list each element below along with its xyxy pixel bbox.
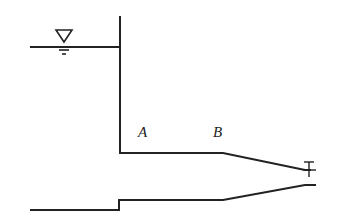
valve-icon bbox=[303, 162, 316, 177]
pipe-upper-wall bbox=[120, 153, 311, 170]
point-a-label: A bbox=[138, 124, 147, 141]
diagram-canvas bbox=[0, 0, 338, 222]
point-b-label: B bbox=[213, 124, 222, 141]
pipe-lower-wall bbox=[30, 185, 316, 210]
water-level-triangle-icon bbox=[56, 30, 72, 54]
